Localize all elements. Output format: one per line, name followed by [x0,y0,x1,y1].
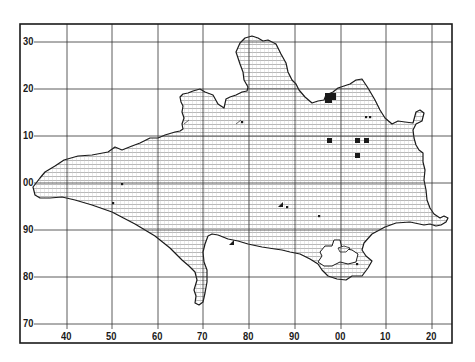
dot-record-marker [121,183,123,185]
square-record-marker [327,138,332,143]
dot-record-marker [356,263,358,265]
x-tick-label: 60 [152,330,162,342]
square-record-marker [355,153,360,158]
x-tick-label: 80 [243,330,253,342]
dot-record-marker [369,116,371,118]
y-tick-label: 70 [23,317,33,329]
square-record-marker [364,138,369,143]
x-tick-label: 20 [426,330,436,342]
square-record-marker [325,96,332,103]
triangle-record-marker [229,240,234,245]
dot-record-marker [365,116,367,118]
y-tick-label: 90 [23,223,33,235]
distribution-map [0,0,475,362]
y-tick-label: 80 [23,270,33,282]
dot-record-marker [286,206,288,208]
dot-record-marker [241,121,243,123]
x-tick-label: 50 [106,330,116,342]
square-record-marker [355,138,360,143]
dot-record-marker [112,202,114,204]
x-tick-label: 10 [380,330,390,342]
x-tick-label: 00 [335,330,345,342]
x-tick-label: 90 [289,330,299,342]
y-tick-label: 10 [23,129,33,141]
x-tick-label: 70 [197,330,207,342]
y-tick-label: 00 [23,176,33,188]
x-tick-label: 40 [61,330,71,342]
y-tick-label: 30 [23,35,33,47]
dot-record-marker [318,215,320,217]
y-tick-label: 20 [23,82,33,94]
